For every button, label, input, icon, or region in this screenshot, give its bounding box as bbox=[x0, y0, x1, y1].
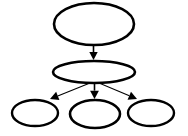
node-mid[interactable] bbox=[53, 61, 135, 83]
node-ellipse[interactable] bbox=[53, 61, 135, 83]
node-ellipse[interactable] bbox=[128, 100, 174, 126]
edge-mid-to-leaf-center bbox=[90, 83, 99, 99]
node-leaf-left[interactable] bbox=[12, 100, 58, 126]
node-root[interactable] bbox=[54, 3, 134, 45]
diagram-canvas bbox=[0, 0, 188, 136]
edge-mid-to-leaf-left bbox=[50, 83, 90, 100]
node-ellipse[interactable] bbox=[12, 100, 58, 126]
diagram-svg bbox=[0, 0, 188, 136]
arrowhead-icon bbox=[90, 91, 99, 99]
arrowhead-icon bbox=[89, 52, 97, 60]
nodes-layer bbox=[12, 3, 174, 128]
edge-shaft bbox=[58, 83, 90, 96]
edge-root-to-mid bbox=[89, 45, 97, 60]
node-ellipse[interactable] bbox=[54, 3, 134, 45]
node-leaf-center[interactable] bbox=[70, 100, 120, 128]
node-leaf-right[interactable] bbox=[128, 100, 174, 126]
node-ellipse[interactable] bbox=[70, 100, 120, 128]
edge-mid-to-leaf-right bbox=[99, 83, 137, 100]
edge-shaft bbox=[99, 83, 129, 96]
